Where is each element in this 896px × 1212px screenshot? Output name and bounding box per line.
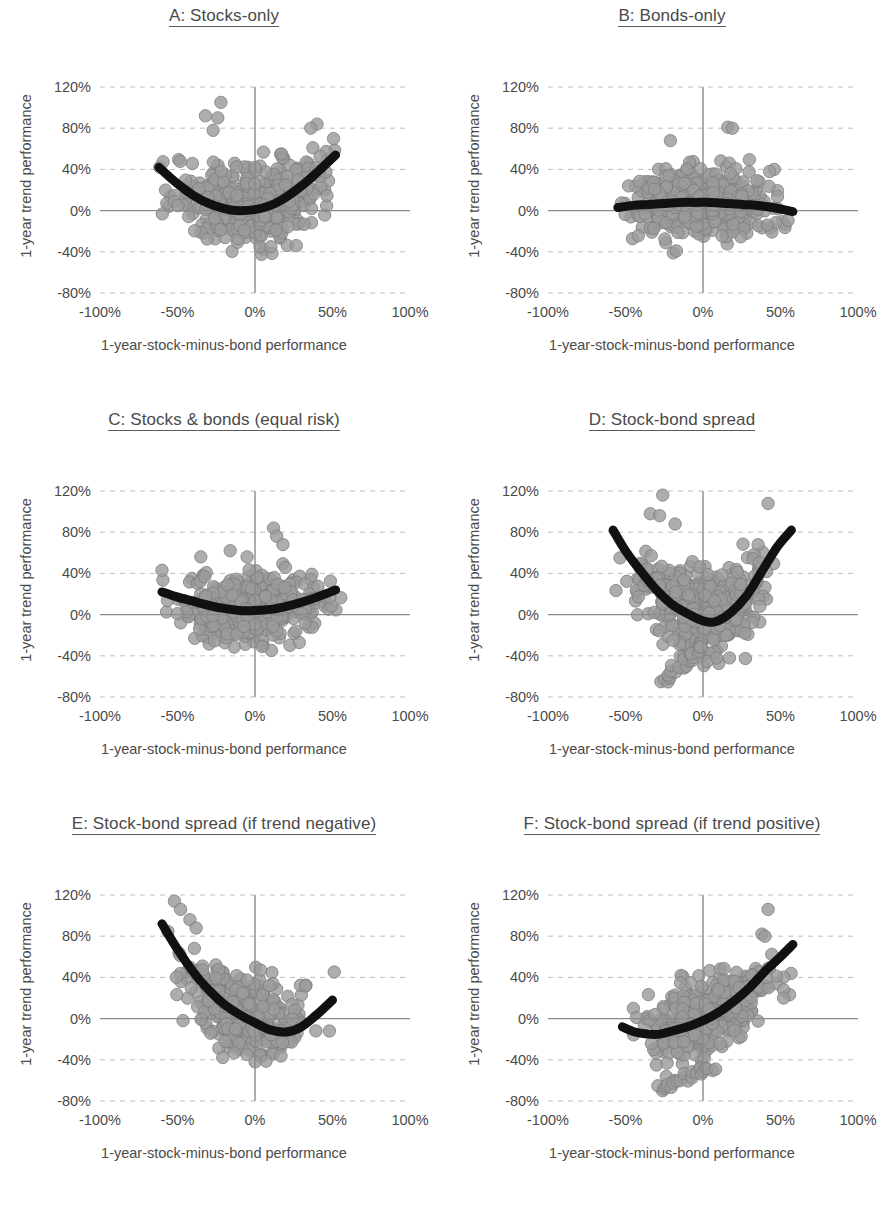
scatter-point xyxy=(752,1015,764,1027)
x-tick-label: 100% xyxy=(391,1112,428,1128)
scatter-point xyxy=(231,189,243,201)
scatter-point xyxy=(676,1011,688,1023)
scatter-point xyxy=(707,187,719,199)
y-tick-label: 0% xyxy=(70,1011,91,1027)
scatter-point xyxy=(670,245,682,257)
scatter-point xyxy=(199,110,211,122)
scatter-point xyxy=(728,1024,740,1036)
scatter-point xyxy=(771,190,783,202)
x-tick-label: 50% xyxy=(766,708,795,724)
y-tick-label: 120% xyxy=(502,887,539,903)
y-axis-label: 1-year trend performance xyxy=(466,859,488,1109)
scatter-point xyxy=(723,652,735,664)
scatter-point xyxy=(621,575,633,587)
figure-panel-grid: A: Stocks-only120%80%40%0%-40%-80%-100%-… xyxy=(0,0,896,1212)
y-tick-label: -40% xyxy=(505,244,539,260)
scatter-point xyxy=(254,964,266,976)
x-tick-label: 50% xyxy=(766,304,795,320)
scatter-point xyxy=(205,1027,217,1039)
x-tick-label: 50% xyxy=(318,708,347,724)
x-tick-label: -100% xyxy=(79,304,121,320)
panel-b: B: Bonds-only120%80%40%0%-40%-80%-100%-5… xyxy=(448,0,896,404)
scatter-point xyxy=(711,652,723,664)
x-tick-label: 100% xyxy=(839,304,876,320)
scatter-point xyxy=(682,589,694,601)
panel-title-c: C: Stocks & bonds (equal risk) xyxy=(0,410,448,430)
x-axis-label: 1-year-stock-minus-bond performance xyxy=(0,337,448,353)
scatter-point xyxy=(650,1059,662,1071)
scatter-point xyxy=(707,634,719,646)
x-axis-label: 1-year-stock-minus-bond performance xyxy=(0,1145,448,1161)
scatter-point xyxy=(667,634,679,646)
y-tick-label: 80% xyxy=(510,524,539,540)
scatter-point xyxy=(716,569,728,581)
y-tick-label: -80% xyxy=(505,689,539,705)
x-tick-label: 100% xyxy=(839,708,876,724)
x-tick-label: -100% xyxy=(527,708,569,724)
scatter-point xyxy=(639,208,651,220)
x-tick-label: -50% xyxy=(609,708,643,724)
x-tick-label: 100% xyxy=(391,304,428,320)
scatter-point xyxy=(290,239,302,251)
scatter-point xyxy=(185,982,197,994)
y-tick-label: 80% xyxy=(510,120,539,136)
scatter-point xyxy=(215,96,227,108)
scatter-point xyxy=(324,575,336,587)
scatter-point xyxy=(653,510,665,522)
scatter-point xyxy=(739,627,751,639)
scatter-point xyxy=(257,146,269,158)
x-axis-label: 1-year-stock-minus-bond performance xyxy=(0,741,448,757)
scatter-point xyxy=(299,617,311,629)
scatter-point xyxy=(761,219,773,231)
scatter-point xyxy=(212,112,224,124)
x-axis-label: 1-year-stock-minus-bond performance xyxy=(448,741,896,757)
scatter-point xyxy=(681,163,693,175)
scatter-point xyxy=(669,518,681,530)
x-tick-label: 100% xyxy=(391,708,428,724)
panel-c: C: Stocks & bonds (equal risk)120%80%40%… xyxy=(0,404,448,808)
scatter-point xyxy=(195,551,207,563)
panel-title-b: B: Bonds-only xyxy=(448,6,896,26)
y-tick-label: -40% xyxy=(57,1052,91,1068)
y-tick-label: 0% xyxy=(518,1011,539,1027)
y-tick-label: -40% xyxy=(57,648,91,664)
scatter-points xyxy=(156,522,347,657)
scatter-point xyxy=(275,1050,287,1062)
scatter-point xyxy=(171,988,183,1000)
scatter-point xyxy=(657,489,669,501)
x-tick-label: 0% xyxy=(245,1112,266,1128)
scatter-point xyxy=(714,1037,726,1049)
x-tick-label: 0% xyxy=(693,708,714,724)
scatter-point xyxy=(256,640,268,652)
scatter-point xyxy=(224,545,236,557)
scatter-point xyxy=(716,230,728,242)
x-tick-label: 0% xyxy=(245,708,266,724)
y-tick-label: 40% xyxy=(62,161,91,177)
y-tick-label: 80% xyxy=(62,120,91,136)
scatter-point xyxy=(328,966,340,978)
scatter-point xyxy=(763,165,775,177)
y-tick-label: 0% xyxy=(518,607,539,623)
scatter-point xyxy=(279,561,291,573)
scatter-point xyxy=(208,635,220,647)
scatter-point xyxy=(670,586,682,598)
y-tick-label: -40% xyxy=(505,1052,539,1068)
x-tick-label: 50% xyxy=(766,1112,795,1128)
panel-title-text: F: Stock-bond spread (if trend positive) xyxy=(524,814,821,835)
scatter-point xyxy=(642,988,654,1000)
scatter-point xyxy=(656,560,668,572)
y-axis-label: 1-year trend performance xyxy=(18,51,40,301)
y-tick-label: -80% xyxy=(57,1093,91,1109)
scatter-point xyxy=(201,233,213,245)
y-axis-label: 1-year trend performance xyxy=(466,455,488,705)
scatter-point xyxy=(257,1000,269,1012)
scatter-point xyxy=(763,180,775,192)
y-tick-label: -40% xyxy=(505,648,539,664)
scatter-point xyxy=(278,582,290,594)
scatter-point xyxy=(663,169,675,181)
y-tick-label: 120% xyxy=(54,483,91,499)
scatter-point xyxy=(270,224,282,236)
scatter-points xyxy=(627,903,797,1097)
y-tick-label: -40% xyxy=(57,244,91,260)
x-tick-label: 100% xyxy=(839,1112,876,1128)
